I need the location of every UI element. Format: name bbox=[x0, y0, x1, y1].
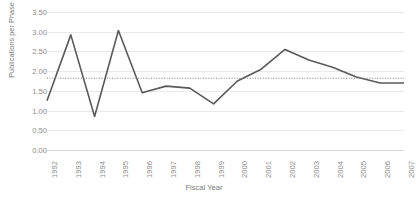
x-tick-label: 1995 bbox=[121, 161, 130, 178]
x-tick-label: 2003 bbox=[312, 161, 321, 178]
y-axis-tick-labels: 3.503.002.502.001.501.000.500.00 bbox=[0, 0, 47, 197]
x-tick-label: 2006 bbox=[383, 161, 392, 178]
x-tick-label: 2004 bbox=[336, 161, 345, 178]
y-tick-label: 1.00 bbox=[13, 106, 47, 115]
y-tick-label: 0.00 bbox=[13, 146, 47, 155]
x-tick-label: 1999 bbox=[217, 161, 226, 178]
x-tick-label: 2002 bbox=[288, 161, 297, 178]
x-tick-label: 1993 bbox=[74, 161, 83, 178]
x-tick-label: 1996 bbox=[145, 161, 154, 178]
y-tick-label: 2.50 bbox=[13, 47, 47, 56]
x-tick-label: 2000 bbox=[240, 161, 249, 178]
x-tick-label: 2001 bbox=[264, 161, 273, 178]
data-line bbox=[47, 31, 404, 117]
y-tick-label: 1.50 bbox=[13, 86, 47, 95]
x-tick-label: 2007 bbox=[407, 161, 416, 178]
y-tick-label: 3.50 bbox=[13, 8, 47, 17]
series-lines bbox=[47, 12, 404, 150]
x-tick-label: 1992 bbox=[50, 161, 59, 178]
x-axis-tick-labels: 1992199319941995199619971998199920002001… bbox=[47, 150, 404, 182]
plot-area bbox=[47, 12, 404, 150]
x-tick-label: 1997 bbox=[169, 161, 178, 178]
x-tick-label: 2005 bbox=[359, 161, 368, 178]
y-tick-label: 2.00 bbox=[13, 67, 47, 76]
x-tick-label: 1998 bbox=[193, 161, 202, 178]
y-tick-label: 3.00 bbox=[13, 27, 47, 36]
x-tick-label: 1994 bbox=[98, 161, 107, 178]
y-tick-label: 0.50 bbox=[13, 126, 47, 135]
x-axis-title: Fiscal Year bbox=[0, 183, 408, 192]
